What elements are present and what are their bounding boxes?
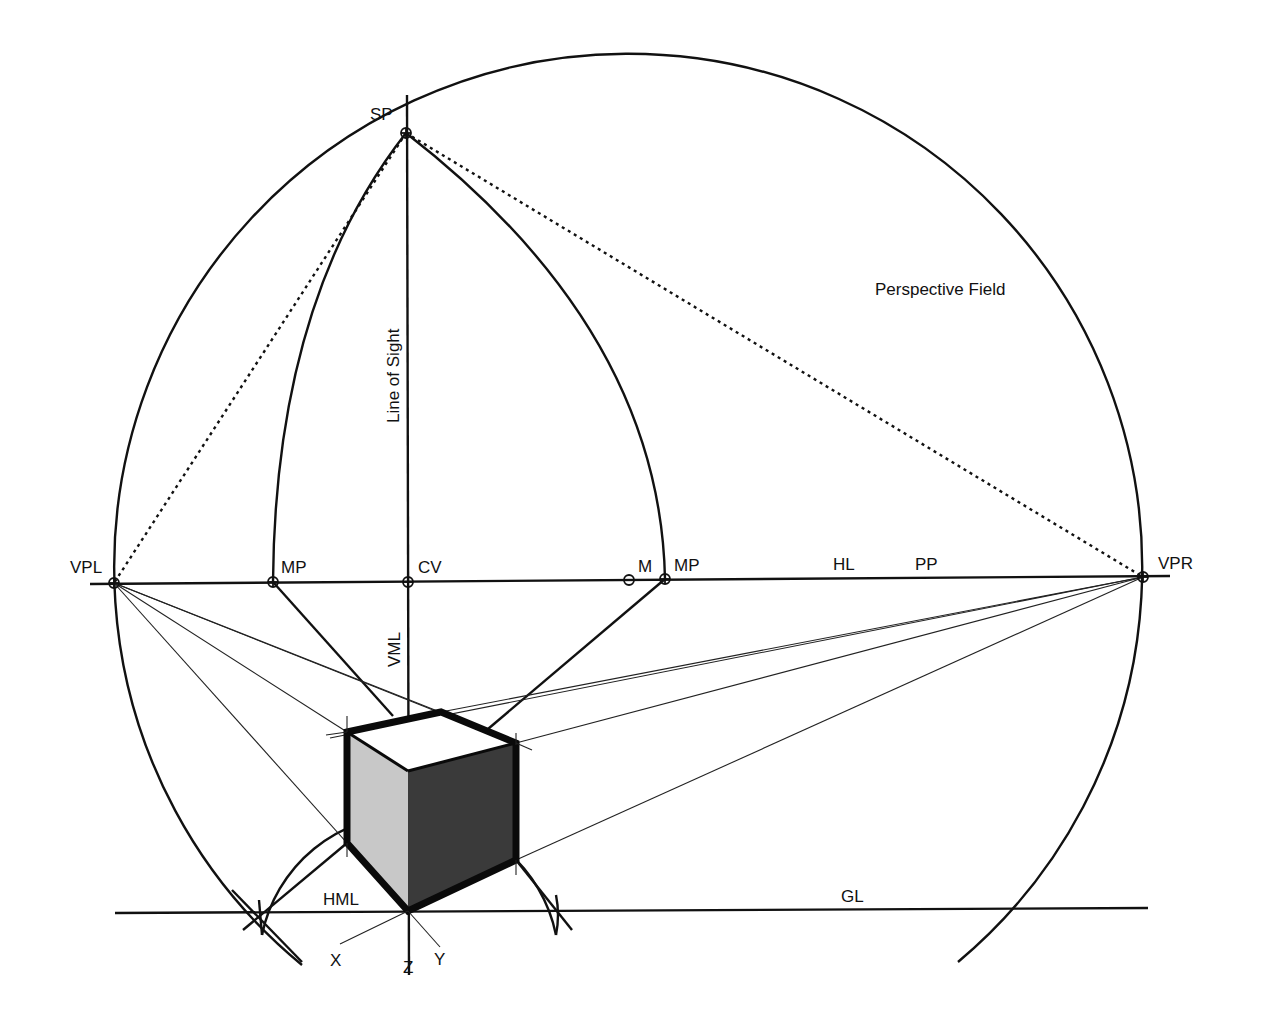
dotted-line-sp-vpr — [406, 133, 1143, 577]
label-sp: SP — [370, 105, 393, 124]
label-mp-right: MP — [674, 556, 700, 575]
label-vpr: VPR — [1158, 554, 1193, 573]
vpl-marker-icon — [109, 578, 119, 588]
label-vpl: VPL — [70, 558, 102, 577]
label-line-of-sight: Line of Sight — [384, 328, 403, 423]
measuring-arc-right — [406, 133, 665, 579]
label-mp-left: MP — [281, 558, 307, 577]
label-m: M — [638, 557, 652, 576]
axis-x-line — [340, 911, 408, 944]
label-perspective-field: Perspective Field — [875, 280, 1005, 299]
label-axis-y: Y — [434, 950, 445, 969]
label-hml: HML — [323, 890, 359, 909]
point-markers — [109, 128, 1148, 588]
label-gl: GL — [841, 887, 864, 906]
perspective-diagram: SP VPL MP CV M MP HL PP VPR Perspective … — [0, 0, 1265, 1028]
label-cv: CV — [418, 558, 442, 577]
mp-right-marker-icon — [660, 574, 670, 584]
hml-diagonal-left-cross — [232, 890, 302, 962]
label-axis-x: X — [330, 951, 341, 970]
arc-right-tail — [556, 895, 558, 935]
m-marker-icon — [624, 575, 634, 585]
hml-diagonal-right — [516, 860, 572, 930]
label-axis-z: Z — [403, 958, 413, 977]
mp-left-marker-icon — [268, 577, 278, 587]
mp-right-to-cube — [488, 579, 665, 729]
cv-marker-icon — [403, 577, 413, 587]
vpr-marker-icon — [1138, 572, 1148, 582]
label-pp: PP — [915, 555, 938, 574]
perspective-field-circle — [114, 54, 1142, 965]
sp-marker-icon — [401, 128, 411, 138]
label-hl: HL — [833, 555, 855, 574]
label-vml: VML — [385, 632, 404, 667]
axis-y-line — [408, 911, 440, 947]
